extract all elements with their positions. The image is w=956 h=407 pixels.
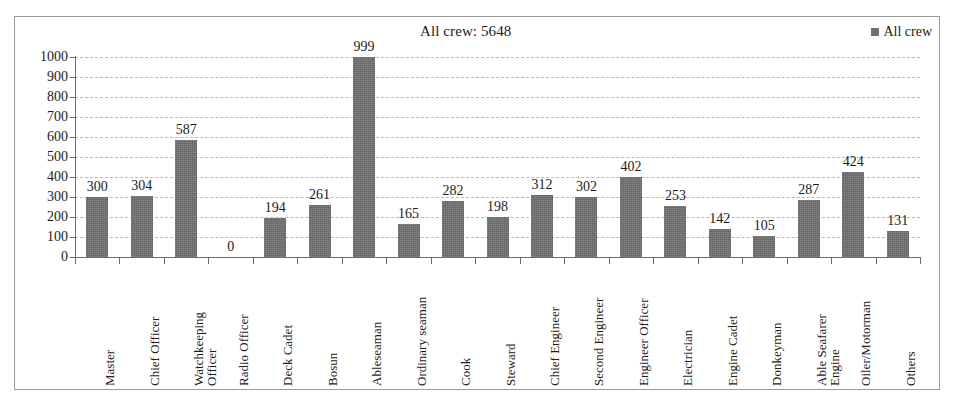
bar-value-label: 999 <box>334 40 394 54</box>
y-axis-tick-label: 1000 <box>22 50 68 64</box>
y-axis-tick-label: 0 <box>22 250 68 264</box>
x-axis-tick-mark <box>876 258 877 264</box>
x-axis-tick-mark <box>431 258 432 264</box>
x-axis-category-label: Engineer Officer <box>637 266 650 386</box>
x-axis-category-label: Ordinary seaman <box>415 266 428 386</box>
x-axis-tick-mark <box>831 258 832 264</box>
x-axis-category-label: Radio Officer <box>237 266 250 386</box>
bar-value-label: 105 <box>734 219 794 233</box>
x-axis-tick-mark <box>208 258 209 264</box>
y-axis-tick-label: 700 <box>22 110 68 124</box>
x-axis-tick-mark <box>475 258 476 264</box>
y-axis-tick-label: 200 <box>22 210 68 224</box>
x-axis-tick-mark <box>75 258 76 264</box>
x-axis-category-label: Master <box>103 266 116 386</box>
y-axis-tick-labels: 10009008007006005004003002001000 <box>10 0 68 407</box>
bar-value-label: 194 <box>245 201 305 215</box>
x-axis-category-label: Electrician <box>681 266 694 386</box>
y-axis-tick-label: 600 <box>22 130 68 144</box>
bar <box>887 231 909 257</box>
x-axis-category-label: Others <box>904 266 917 386</box>
bar-value-label: 253 <box>645 189 705 203</box>
x-axis-tick-mark <box>653 258 654 264</box>
x-axis-tick-mark <box>119 258 120 264</box>
bar <box>264 218 286 257</box>
bar-value-label: 282 <box>423 184 483 198</box>
y-axis-tick-label: 100 <box>22 230 68 244</box>
x-axis-tick-mark <box>253 258 254 264</box>
bar <box>442 201 464 257</box>
gridline <box>75 197 920 198</box>
x-axis-tick-mark <box>342 258 343 264</box>
chart-legend: All crew <box>871 24 932 40</box>
x-axis-category-label: Deck Cadet <box>281 266 294 386</box>
bar <box>398 224 420 257</box>
bar <box>309 205 331 257</box>
x-axis-category-label: Donkeyman <box>770 266 783 386</box>
bar <box>620 177 642 257</box>
x-axis-category-label: Chief Engineer <box>548 266 561 386</box>
bar-value-label: 165 <box>379 207 439 221</box>
bar-value-label: 287 <box>779 183 839 197</box>
x-axis-tick-mark <box>920 258 921 264</box>
chart-figure: All crew: 5648 All crew 1000900800700600… <box>0 0 956 407</box>
bar <box>798 200 820 257</box>
x-axis-tick-mark <box>564 258 565 264</box>
y-axis-tick-mark <box>70 217 76 218</box>
y-axis-tick-mark <box>70 197 76 198</box>
x-axis-category-label: Cook <box>459 266 472 386</box>
y-axis-tick-label: 500 <box>22 150 68 164</box>
x-axis-tick-mark <box>787 258 788 264</box>
x-axis-category-label: Second Engineer <box>592 266 605 386</box>
y-axis-tick-mark <box>70 237 76 238</box>
legend-swatch-all-crew <box>871 28 879 36</box>
bar-value-label: 304 <box>112 179 172 193</box>
bar-value-label: 131 <box>868 214 928 228</box>
gridline <box>75 157 920 158</box>
x-axis-tick-mark <box>698 258 699 264</box>
bar <box>709 229 731 257</box>
y-axis-tick-mark <box>70 157 76 158</box>
x-axis-category-label: Steward <box>504 266 517 386</box>
x-axis-category-label: Able SeafarerEngine <box>815 266 841 386</box>
x-axis-line <box>75 257 921 258</box>
x-axis-tick-mark <box>520 258 521 264</box>
y-axis-tick-label: 300 <box>22 190 68 204</box>
y-axis-tick-mark <box>70 97 76 98</box>
bar <box>753 236 775 257</box>
y-axis-tick-mark <box>70 57 76 58</box>
chart-title: All crew: 5648 <box>420 23 620 40</box>
x-axis-tick-mark <box>609 258 610 264</box>
x-axis-tick-mark <box>297 258 298 264</box>
bar-value-label: 424 <box>823 155 883 169</box>
bar-value-label: 261 <box>290 188 350 202</box>
gridline <box>75 137 920 138</box>
gridline <box>75 97 920 98</box>
legend-label-all-crew: All crew <box>883 24 932 40</box>
bar <box>664 206 686 257</box>
x-axis-tick-mark <box>386 258 387 264</box>
gridline <box>75 177 920 178</box>
bar-value-label: 198 <box>468 200 528 214</box>
bar <box>353 57 375 257</box>
x-axis-category-label: WatchkeepingOfficer <box>192 266 218 386</box>
gridline <box>75 57 920 58</box>
bar <box>86 197 108 257</box>
y-axis-tick-label: 400 <box>22 170 68 184</box>
y-axis-tick-mark <box>70 177 76 178</box>
x-axis-category-label: Ableseaman <box>370 266 383 386</box>
x-axis-tick-mark <box>742 258 743 264</box>
bar <box>487 217 509 257</box>
gridline <box>75 117 920 118</box>
bar <box>575 197 597 257</box>
bar-value-label: 0 <box>201 240 261 254</box>
bar-value-label: 402 <box>601 160 661 174</box>
x-axis-category-label: Bosun <box>326 266 339 386</box>
bar <box>131 196 153 257</box>
y-axis-tick-mark <box>70 77 76 78</box>
x-axis-tick-mark <box>164 258 165 264</box>
bar <box>842 172 864 257</box>
y-axis-tick-label: 800 <box>22 90 68 104</box>
bar <box>531 195 553 257</box>
bar-value-label: 302 <box>556 180 616 194</box>
